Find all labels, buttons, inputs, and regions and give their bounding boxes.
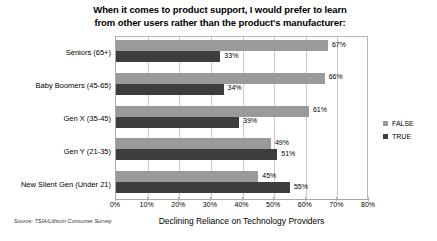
- y-axis-label: Gen Y (21-35): [0, 147, 111, 156]
- x-axis-tick-label: 30%: [203, 201, 217, 208]
- bar-false: [116, 106, 309, 117]
- legend-label: TRUE: [392, 133, 411, 140]
- x-axis-tick-label: 60%: [298, 201, 312, 208]
- y-axis-label: Seniors (65+): [0, 48, 111, 57]
- legend-item[interactable]: TRUE: [383, 131, 414, 142]
- bar-true: [116, 149, 277, 160]
- legend-swatch-icon: [383, 121, 388, 126]
- x-axis-tick-labels: 0%10%20%30%40%50%60%70%80%: [115, 201, 368, 213]
- x-axis-tick-label: 70%: [329, 201, 343, 208]
- bar-true: [116, 51, 220, 62]
- y-axis-label: Baby Boomers (45-65): [0, 81, 111, 90]
- bar-value-label-true: 55%: [294, 183, 308, 191]
- bar-value-label-false: 67%: [332, 41, 346, 49]
- bar-value-label-false: 66%: [329, 73, 343, 81]
- y-axis-label: New Silent Gen (Under 21): [0, 180, 111, 189]
- x-axis-tick-label: 0%: [110, 201, 120, 208]
- y-axis-label: Gen X (35-45): [0, 114, 111, 123]
- chart-bar-group: 49%51%: [116, 135, 367, 168]
- x-axis-tick-mark: [305, 197, 306, 201]
- legend-item[interactable]: FALSE: [383, 118, 414, 129]
- bar-value-label-true: 34%: [228, 84, 242, 92]
- bar-value-label-false: 45%: [262, 172, 276, 180]
- x-axis-tick-label: 50%: [266, 201, 280, 208]
- bar-value-label-false: 61%: [313, 106, 327, 114]
- bar-true: [116, 117, 239, 128]
- legend-swatch-icon: [383, 134, 388, 139]
- bar-false: [116, 73, 325, 84]
- chart-title: When it comes to product support, I woul…: [55, 4, 385, 29]
- chart-bar-group: 61%39%: [116, 103, 367, 136]
- x-axis-tick-mark: [210, 197, 211, 201]
- bar-true: [116, 182, 290, 193]
- bar-false: [116, 40, 328, 51]
- bar-value-label-false: 49%: [275, 139, 289, 147]
- chart-legend: FALSETRUE: [383, 118, 414, 144]
- bar-value-label-true: 51%: [281, 150, 295, 158]
- legend-label: FALSE: [392, 120, 414, 127]
- x-axis-tick-label: 40%: [234, 201, 248, 208]
- x-axis-tick-mark: [273, 197, 274, 201]
- x-axis-tick-mark: [115, 197, 116, 201]
- chart-bar-group: 66%34%: [116, 70, 367, 103]
- chart-figure: When it comes to product support, I woul…: [0, 0, 437, 241]
- bar-value-label-true: 33%: [224, 52, 238, 60]
- chart-title-line-2: from other users rather than the product…: [55, 17, 385, 30]
- x-axis-tick-mark: [147, 197, 148, 201]
- chart-bar-group: 67%33%: [116, 37, 367, 70]
- x-axis-tick-label: 10%: [140, 201, 154, 208]
- x-axis-tick-label: 80%: [361, 201, 375, 208]
- plot-area: 67%33%66%34%61%39%49%51%45%55%: [115, 36, 368, 200]
- x-axis-title: Declining Reliance on Technology Provide…: [115, 216, 368, 226]
- x-axis-tick-label: 20%: [171, 201, 185, 208]
- bar-true: [116, 84, 224, 95]
- x-axis-tick-mark: [368, 197, 369, 201]
- x-axis-tick-mark: [178, 197, 179, 201]
- bar-value-label-true: 39%: [243, 117, 257, 125]
- x-axis-tick-mark: [336, 197, 337, 201]
- bar-false: [116, 171, 258, 182]
- bar-false: [116, 138, 271, 149]
- x-axis-tick-mark: [242, 197, 243, 201]
- source-note: Source: TSIA/Lithium Consumer Survey: [14, 218, 112, 224]
- y-axis-category-labels: Seniors (65+)Baby Boomers (45-65)Gen X (…: [0, 36, 115, 200]
- chart-title-line-1: When it comes to product support, I woul…: [55, 4, 385, 17]
